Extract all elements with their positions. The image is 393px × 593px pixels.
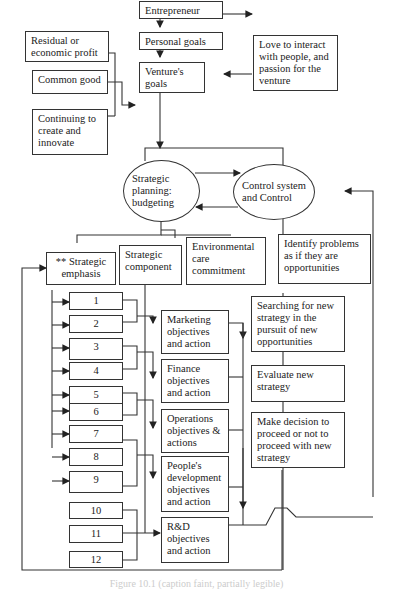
operations-objectives-box: Operations objectives & actions bbox=[161, 409, 229, 453]
number-label: 1 bbox=[93, 295, 98, 306]
number-box-8: 8 bbox=[69, 448, 123, 466]
rnd-objectives-label: R&D objectives and action bbox=[167, 521, 210, 556]
continuing-innovate-box: Continuing to create and innovate bbox=[32, 109, 108, 155]
personal-goals-box: Personal goals bbox=[139, 32, 223, 50]
number-label: 12 bbox=[91, 554, 102, 565]
ventures-goals-box: Venture's goals bbox=[139, 62, 205, 93]
number-label: 10 bbox=[91, 505, 102, 516]
number-box-12: 12 bbox=[69, 551, 123, 568]
number-box-9: 9 bbox=[69, 471, 123, 493]
number-box-1: 1 bbox=[69, 292, 123, 310]
continuing-innovate-label: Continuing to create and innovate bbox=[38, 113, 96, 148]
number-label: 2 bbox=[93, 318, 98, 329]
number-box-10: 10 bbox=[69, 502, 123, 519]
number-box-7: 7 bbox=[69, 425, 123, 443]
decision-box: Make decision to proceed or not to proce… bbox=[251, 412, 345, 468]
figure-caption: Figure 10.1 (caption faint, partially le… bbox=[0, 578, 393, 589]
people-development-label: People's development objectives and acti… bbox=[167, 460, 221, 507]
identify-problems-box: Identify problems as if they are opportu… bbox=[278, 234, 371, 284]
love-passion-label: Love to interact with people, and passio… bbox=[259, 39, 329, 86]
operations-objectives-label: Operations objectives & actions bbox=[167, 413, 220, 448]
number-box-4: 4 bbox=[69, 362, 123, 380]
people-development-box: People's development objectives and acti… bbox=[161, 456, 229, 512]
strategic-emphasis-label: ** Strategic emphasis bbox=[56, 256, 106, 279]
number-box-11: 11 bbox=[69, 525, 123, 543]
evaluate-strategy-label: Evaluate new strategy bbox=[257, 369, 314, 392]
rnd-objectives-box: R&D objectives and action bbox=[161, 517, 229, 563]
ventures-goals-label: Venture's goals bbox=[145, 66, 184, 89]
environmental-care-label: Environmental care commitment bbox=[192, 241, 254, 276]
personal-goals-label: Personal goals bbox=[145, 36, 206, 47]
strategic-component-label: Strategic component bbox=[125, 249, 172, 272]
number-box-5: 5 bbox=[69, 386, 123, 404]
number-box-3: 3 bbox=[69, 338, 123, 360]
number-label: 3 bbox=[93, 341, 98, 352]
number-label: 4 bbox=[93, 365, 98, 376]
residual-profit-label: Residual or economic profit bbox=[31, 35, 98, 58]
finance-objectives-label: Finance objectives and action bbox=[167, 363, 210, 398]
common-good-label: Common good bbox=[38, 74, 101, 85]
decision-label: Make decision to proceed or not to proce… bbox=[257, 416, 332, 463]
marketing-objectives-label: Marketing objectives and action bbox=[167, 314, 211, 349]
number-label: 11 bbox=[91, 528, 101, 539]
number-label: 5 bbox=[93, 389, 98, 400]
strategic-component-box: Strategic component bbox=[119, 245, 182, 285]
control-system-ellipse: Control system and Control bbox=[233, 164, 315, 220]
number-label: 8 bbox=[93, 451, 98, 462]
strategic-planning-ellipse: Strategic planning: budgeting bbox=[123, 160, 200, 222]
number-box-6: 6 bbox=[69, 403, 123, 421]
control-system-label: Control system and Control bbox=[242, 180, 314, 204]
number-label: 7 bbox=[93, 428, 98, 439]
number-label: 6 bbox=[93, 406, 98, 417]
love-passion-box: Love to interact with people, and passio… bbox=[253, 35, 338, 91]
residual-profit-box: Residual or economic profit bbox=[25, 31, 109, 62]
searching-strategy-label: Searching for new strategy in the pursui… bbox=[257, 300, 334, 347]
environmental-care-box: Environmental care commitment bbox=[186, 237, 266, 285]
marketing-objectives-box: Marketing objectives and action bbox=[161, 310, 229, 354]
number-box-2: 2 bbox=[69, 315, 123, 333]
finance-objectives-box: Finance objectives and action bbox=[161, 359, 229, 403]
identify-problems-label: Identify problems as if they are opportu… bbox=[284, 238, 359, 273]
entrepreneur-box: Entrepreneur bbox=[139, 1, 223, 19]
entrepreneur-label: Entrepreneur bbox=[145, 5, 200, 16]
number-label: 9 bbox=[93, 474, 98, 485]
strategic-emphasis-box: ** Strategic emphasis bbox=[46, 252, 116, 285]
common-good-box: Common good bbox=[32, 70, 108, 94]
strategic-planning-label: Strategic planning: budgeting bbox=[132, 173, 199, 209]
evaluate-strategy-box: Evaluate new strategy bbox=[251, 365, 345, 402]
searching-strategy-box: Searching for new strategy in the pursui… bbox=[251, 296, 345, 352]
